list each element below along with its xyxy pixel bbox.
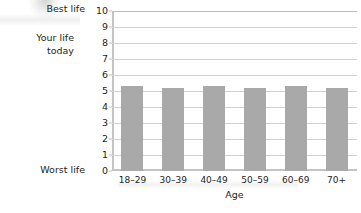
y-axis-title-line1: Your life — [36, 32, 74, 43]
bar — [326, 88, 348, 171]
y-axis-title: Your life today — [4, 31, 74, 57]
y-tick-label: 9 — [102, 22, 108, 32]
axis-min-annotation: Worst life — [40, 164, 85, 175]
bar — [203, 86, 225, 171]
y-tick-label: 0 — [102, 166, 108, 176]
bar — [244, 88, 266, 171]
plot-area: 012345678910 18–2930–3940–4950–5960–6970… — [112, 11, 357, 171]
x-tick-label: 30–39 — [160, 175, 187, 185]
bar — [162, 88, 184, 171]
y-tick-label: 6 — [102, 70, 108, 80]
x-axis-title: Age — [225, 189, 243, 200]
x-tick-label: 50–59 — [241, 175, 268, 185]
chart-figure: Best life Worst life Your life today 012… — [0, 0, 361, 213]
axis-max-annotation: Best life — [46, 3, 85, 14]
y-tick-label: 3 — [102, 118, 108, 128]
y-axis-title-line2: today — [4, 44, 74, 57]
y-tick-label: 2 — [102, 134, 108, 144]
y-tick-label: 5 — [102, 86, 108, 96]
y-tick-label: 1 — [102, 150, 108, 160]
y-tick-label: 7 — [102, 54, 108, 64]
bar — [121, 86, 143, 171]
x-tick-label: 70+ — [327, 175, 346, 185]
x-tick-label: 40–49 — [200, 175, 227, 185]
x-tick-label: 18–29 — [119, 175, 146, 185]
bar — [285, 86, 307, 171]
bars — [112, 11, 357, 171]
scan-artifact-band-top — [0, 14, 80, 26]
y-tick-label: 10 — [96, 6, 108, 16]
y-tick-label: 8 — [102, 38, 108, 48]
x-tick-label: 60–69 — [282, 175, 309, 185]
y-tick-label: 4 — [102, 102, 108, 112]
